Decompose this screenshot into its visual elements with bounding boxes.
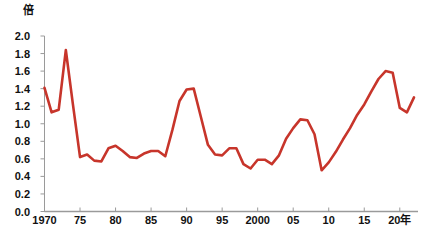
data-series-line — [45, 50, 415, 170]
chart-container: 倍 0.00.20.40.60.81.01.21.41.61.82.0 1970… — [0, 0, 423, 239]
y-axis-ticks — [41, 36, 45, 212]
plot-area — [0, 0, 423, 239]
